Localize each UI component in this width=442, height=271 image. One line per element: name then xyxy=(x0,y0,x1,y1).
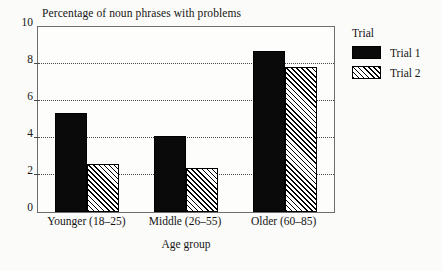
bar xyxy=(87,164,119,212)
x-axis-title: Age group xyxy=(37,238,335,250)
plot-inner: 0246810 xyxy=(38,27,334,212)
y-axis-tick-label-2: 2 xyxy=(27,164,33,176)
y-axis-tick-label-0: 0 xyxy=(27,201,33,213)
legend: Trial Trial 1 Trial 2 xyxy=(352,27,440,86)
plot-area: 0246810 xyxy=(37,26,335,213)
bar-group xyxy=(55,27,119,212)
y-axis-tick-label-4: 4 xyxy=(27,127,33,139)
legend-item-trial-1: Trial 1 xyxy=(352,46,440,59)
bar xyxy=(285,67,317,212)
bar-group xyxy=(253,27,317,212)
x-axis-tick-label: Older (60–85) xyxy=(234,215,333,227)
legend-label-trial-1: Trial 1 xyxy=(390,47,421,59)
y-axis-tick-label-8: 8 xyxy=(27,53,33,65)
legend-title: Trial xyxy=(352,27,440,39)
bar xyxy=(253,51,285,212)
y-axis-tick-label-10: 10 xyxy=(22,16,34,28)
legend-label-trial-2: Trial 2 xyxy=(390,67,421,79)
legend-item-trial-2: Trial 2 xyxy=(352,66,440,79)
legend-swatch-hatched-icon xyxy=(352,66,381,79)
chart-title: Percentage of noun phrases with problems xyxy=(42,7,241,20)
y-axis-tick-mark-6 xyxy=(34,100,38,101)
bar xyxy=(55,113,87,212)
x-axis-tick-label: Younger (18–25) xyxy=(37,215,136,227)
y-axis-tick-mark-2 xyxy=(34,174,38,175)
bar-group xyxy=(154,27,218,212)
legend-swatch-solid-icon xyxy=(352,46,381,59)
y-axis-tick-mark-4 xyxy=(34,137,38,138)
y-axis-tick-label-6: 6 xyxy=(27,90,33,102)
y-axis-tick-mark-8 xyxy=(34,63,38,64)
bar xyxy=(186,168,218,212)
bar xyxy=(154,136,186,212)
x-axis-tick-label: Middle (26–55) xyxy=(136,215,235,227)
bar-chart: Percentage of noun phrases with problems… xyxy=(0,0,442,271)
